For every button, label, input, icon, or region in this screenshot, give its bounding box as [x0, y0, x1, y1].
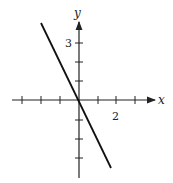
coordinate-plane: x y 2 3 — [0, 0, 173, 183]
y-axis-label: y — [73, 6, 81, 20]
x-axis-label: x — [158, 93, 165, 107]
y-tick-label-3: 3 — [65, 37, 72, 50]
x-tick-label-2: 2 — [112, 110, 119, 123]
graph-line — [41, 23, 111, 168]
